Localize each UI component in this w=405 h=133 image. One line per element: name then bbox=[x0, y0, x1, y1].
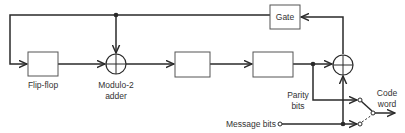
switch-pivot bbox=[371, 111, 375, 115]
junction-dot-top bbox=[114, 13, 117, 16]
register-block-3 bbox=[253, 52, 293, 77]
message-input-terminal bbox=[278, 122, 282, 126]
line-adder2-to-gate bbox=[301, 17, 343, 54]
adder-label-line2: adder bbox=[91, 91, 141, 101]
switch-contact-parity bbox=[358, 98, 362, 102]
flip-flop-label: Flip-flop bbox=[18, 80, 68, 90]
code-word-label-line2: word bbox=[372, 99, 402, 109]
code-word-label-line1: Code bbox=[372, 88, 402, 98]
switch-arm bbox=[361, 101, 372, 111]
gate-label: Gate bbox=[270, 12, 300, 22]
adder-label-line1: Modulo-2 bbox=[91, 80, 141, 90]
message-bits-label: Message bits bbox=[218, 119, 276, 129]
switch-alt-dashed bbox=[362, 115, 372, 122]
flip-flop-block bbox=[28, 52, 58, 76]
encoder-diagram bbox=[0, 0, 405, 133]
parity-bits-label-line2: bits bbox=[283, 101, 313, 111]
register-block-2 bbox=[175, 52, 210, 77]
parity-bits-label-line1: Parity bbox=[283, 90, 313, 100]
switch-contact-message bbox=[358, 122, 362, 126]
